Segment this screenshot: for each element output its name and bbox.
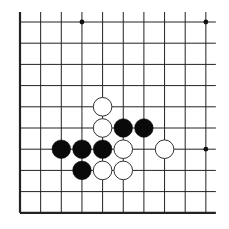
black-stone[interactable] [73,161,92,180]
black-stone[interactable] [135,119,154,138]
star-point [203,147,208,152]
star-point [203,20,208,25]
black-stone[interactable] [93,140,112,159]
white-stone[interactable] [155,140,174,159]
black-stone[interactable] [114,119,133,138]
white-stone[interactable] [114,161,133,180]
star-point [80,20,85,25]
go-board[interactable] [0,0,229,229]
white-stone[interactable] [114,140,133,159]
board-grid [20,12,216,213]
white-stone[interactable] [93,161,112,180]
white-stone[interactable] [93,98,112,117]
black-stone[interactable] [73,140,92,159]
black-stone[interactable] [52,140,71,159]
white-stone[interactable] [93,119,112,138]
stones-layer [52,98,174,180]
